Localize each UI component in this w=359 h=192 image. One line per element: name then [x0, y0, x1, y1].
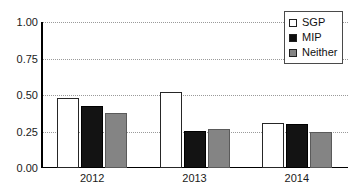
legend-swatch-sgp-icon: [289, 19, 297, 27]
y-axis-tick-label: 0.50: [4, 90, 38, 101]
x-axis: 201220132014: [41, 170, 348, 190]
bar-chart: 0.000.250.500.751.00 201220132014 SGPMIP…: [0, 0, 359, 192]
legend-entry-mip[interactable]: MIP: [289, 30, 337, 45]
bar-mip-2014: [286, 124, 308, 168]
y-axis-tick-label: 0.25: [4, 126, 38, 137]
legend-entry-sgp[interactable]: SGP: [289, 15, 337, 30]
bar-neither-2014: [310, 132, 332, 168]
bar-neither-2012: [105, 113, 127, 168]
bar-sgp-2013: [160, 92, 182, 168]
y-axis-tick-label: 1.00: [4, 17, 38, 28]
x-axis-tick-label: 2012: [80, 172, 104, 184]
y-axis-tick-label: 0.00: [4, 163, 38, 174]
bar-sgp-2012: [57, 98, 79, 168]
bar-sgp-2014: [262, 123, 284, 168]
bar-mip-2013: [184, 131, 206, 168]
bar-mip-2012: [81, 106, 103, 168]
legend-entry-neither[interactable]: Neither: [289, 45, 337, 60]
x-axis-tick-label: 2014: [285, 172, 309, 184]
y-axis-tick-label: 0.75: [4, 53, 38, 64]
x-axis-tick-label: 2013: [182, 172, 206, 184]
y-axis: 0.000.250.500.751.00: [0, 0, 38, 192]
legend-swatch-mip-icon: [289, 34, 297, 42]
legend-label: Neither: [302, 47, 337, 58]
legend-label: MIP: [302, 32, 322, 43]
bar-neither-2013: [208, 129, 230, 168]
chart-legend: SGPMIPNeither: [284, 11, 343, 64]
legend-swatch-neither-icon: [289, 49, 297, 57]
legend-label: SGP: [302, 17, 325, 28]
